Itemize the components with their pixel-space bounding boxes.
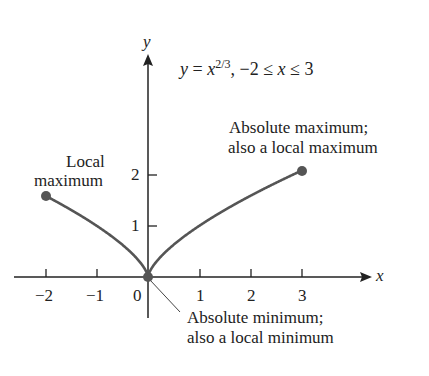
abs-min-point (143, 272, 153, 282)
abs-min-leader-line (150, 280, 180, 312)
x-tick-label: −1 (86, 287, 104, 305)
abs-max-point (297, 166, 307, 176)
y-tick-label: 1 (131, 217, 140, 235)
eq-base: x (207, 59, 215, 79)
y-axis-label: y (143, 32, 151, 52)
x-tick-label: 2 (247, 287, 256, 305)
x-tick-label: 0 (133, 287, 142, 305)
x-ticks (46, 269, 302, 277)
eq-domain: , −2 ≤ (231, 59, 278, 79)
local-max-label-line2: maximum (34, 171, 103, 191)
abs-max-label-line1: Absolute maximum; (229, 118, 368, 138)
x-tick-label: −2 (35, 287, 53, 305)
y-ticks (148, 175, 157, 226)
local-max-label-line1: Local (66, 152, 105, 172)
x-tick-label: 3 (298, 287, 307, 305)
abs-min-label-line2: also a local minimum (187, 328, 334, 348)
abs-min-label-line1: Absolute minimum; (187, 308, 323, 328)
eq-var: x (278, 59, 286, 79)
eq-exponent: 2/3 (215, 57, 230, 71)
x-tick-label: 1 (196, 287, 205, 305)
equation: y = x2/3, −2 ≤ x ≤ 3 (180, 54, 313, 79)
y-tick-label: 2 (131, 166, 140, 184)
eq-lhs: y (180, 59, 188, 79)
eq-sign: = (188, 59, 207, 79)
eq-domain-end: ≤ 3 (286, 59, 314, 79)
x-axis-label: x (376, 266, 384, 286)
local-max-point (41, 191, 51, 201)
abs-max-label-line2: also a local maximum (228, 138, 378, 158)
